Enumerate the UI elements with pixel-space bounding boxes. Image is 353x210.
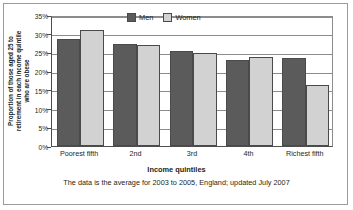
legend-label-men: Men	[139, 13, 153, 22]
legend-item-men: Men	[127, 13, 153, 22]
legend-swatch-men-icon	[127, 13, 136, 22]
legend-item-women: Women	[163, 13, 200, 22]
y-axis-tick-label: 10%	[24, 106, 48, 113]
chart-figure: Proportion of those aged 25 to retiremen…	[0, 0, 353, 210]
chart-caption: The data is the average for 2003 to 2005…	[0, 178, 353, 187]
x-axis-tick-label: Richest fifth	[286, 149, 324, 158]
y-axis-tick-mark	[47, 90, 51, 91]
x-axis-tick-label: 4th	[243, 149, 253, 158]
y-axis-tick-mark	[47, 147, 51, 148]
x-axis-tick-label: 3rd	[187, 149, 197, 158]
y-axis-tick-label: 25%	[24, 50, 48, 57]
y-axis-tick-label: 15%	[24, 87, 48, 94]
y-axis-tick-mark	[47, 34, 51, 35]
y-axis-tick-label: 5%	[24, 125, 48, 132]
y-axis-tick-mark	[47, 128, 51, 129]
x-axis-title: Income quintiles	[0, 165, 353, 174]
legend: Men Women	[127, 13, 201, 22]
y-axis-tick-mark	[47, 72, 51, 73]
y-axis-tick-mark	[47, 16, 51, 17]
legend-swatch-women-icon	[163, 13, 172, 22]
y-axis-tick-mark	[47, 53, 51, 54]
x-axis-ticks: Poorest fifth2nd3rd4thRichest fifth	[51, 149, 333, 161]
x-axis-tick-label: 2nd	[130, 149, 142, 158]
y-axis-tick-label: 20%	[24, 69, 48, 76]
legend-label-women: Women	[175, 13, 200, 22]
y-axis-ticks: 0%5%10%15%20%25%30%35%	[0, 16, 353, 147]
x-axis-tick-label: Poorest fifth	[60, 149, 98, 158]
y-axis-tick-label: 30%	[24, 31, 48, 38]
y-axis-tick-label: 35%	[24, 13, 48, 20]
y-axis-tick-mark	[47, 109, 51, 110]
y-axis-tick-label: 0%	[24, 144, 48, 151]
